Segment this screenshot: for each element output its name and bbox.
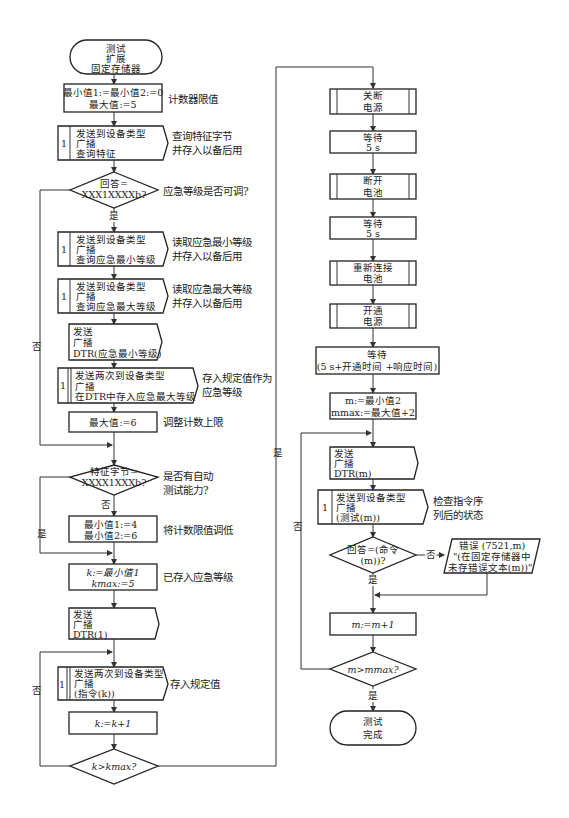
decision-answer-equals-command: 回答=(命令 (m))? [330, 537, 416, 573]
store-command-box: 1 发送两次到设备类型 广播 (指令(k)) [58, 667, 168, 700]
send-dtr-min-line-1: 发送 [73, 326, 93, 337]
send-dtr1-line-3: DTR(1) [73, 629, 108, 640]
decision3-line: k>kmax? [92, 761, 138, 772]
reconnect-battery-box: 重新连接 电池 [330, 261, 416, 285]
set-m-line-1: m:=最小值2 [345, 395, 401, 406]
decision-k-greater-kmax: k>kmax? [70, 749, 158, 784]
error-line-2: "(在固定存储器中 [453, 551, 531, 562]
set-min-note: 将计数限值调低 [163, 524, 234, 536]
query-max-line-3: 查询应急最大等级 [76, 301, 156, 312]
end-terminator: 测试 完成 [330, 711, 416, 745]
send-dtr-m-box: 发送 广播 DTR(m) [330, 447, 418, 479]
decision-m-greater-mmax: m>mmax? [330, 652, 416, 686]
query-min-note-2: 并存入以备后用 [172, 250, 242, 262]
decision2-note-2: 测试能力? [163, 484, 209, 496]
query-emergency-max-box: 1 发送到设备类型 广播 查询应急最大等级 [58, 279, 168, 313]
decision5-line: m>mmax? [347, 664, 399, 675]
query-min-line-3: 查询应急最小等级 [76, 254, 156, 265]
end-line-1: 测试 [363, 716, 383, 727]
error-line-1: 错误 (7521,m) [459, 540, 526, 551]
set-max-6-box: 最大值:=6 [69, 412, 157, 432]
decision5-no-label: 否 [293, 521, 303, 532]
decision1-no-label: 否 [32, 341, 42, 352]
test-m-box: 1 发送到设备类型 广播 (测试(m)) [318, 490, 428, 524]
set-min-line-2: 最小值2:=6 [84, 530, 137, 541]
init-line-1: 最小值1:=最小值2:=0 [63, 87, 163, 98]
store-cmd-line-3: (指令(k)) [74, 688, 115, 699]
send-dtr-emergency-min-box: 发送 广播 DTR(应急最小等级) [69, 324, 162, 360]
wait3-line-1: 等待 [367, 349, 387, 360]
store-max-note-1: 存入规定值作为 [202, 372, 272, 384]
query-features-num: 1 [61, 138, 67, 149]
set-k-box: k:=最小值1 kmax:=5 [69, 564, 157, 590]
end-line-2: 完成 [363, 729, 383, 740]
store-cmd-num: 1 [59, 679, 65, 690]
query-features-note-2: 并存入以备后用 [172, 144, 242, 156]
decision1-note: 应急等级是否可调? [163, 185, 249, 197]
set-max6-line: 最大值:=6 [89, 417, 136, 428]
set-k-line-1: k:=最小值1 [87, 567, 140, 578]
send-dtr-1-box: 发送 广播 DTR(1) [69, 608, 159, 640]
decision2-no-label: 否 [101, 499, 111, 510]
wait-5s-box-2: 等待 5 s [330, 217, 416, 239]
set-min-line-1: 最小值1:=4 [84, 519, 137, 530]
set-m-line-2: mmax:=最大值+2 [331, 407, 415, 418]
set-min-limits-box: 最小值1:=4 最小值2:=6 [69, 516, 157, 542]
set-k-note: 已存入应急等级 [163, 571, 234, 583]
inc-m-line: m:=m+1 [351, 619, 394, 630]
query-emergency-min-box: 1 发送到设备类型 广播 查询应急最小等级 [58, 232, 168, 266]
decision2-yes-label: 是 [37, 528, 47, 539]
power-on-box: 开通 电源 [330, 304, 416, 328]
decision1-line-2: XXX1XXXXb? [82, 189, 147, 200]
wait2-line-2: 5 s [366, 228, 380, 239]
query-max-note-1: 读取应急最大等级 [172, 283, 253, 295]
store-max-note-2: 应急等级 [202, 386, 243, 398]
send-dtr-m-line-3: DTR(m) [334, 468, 372, 479]
test-m-line-3: (测试(m)) [336, 512, 380, 523]
increment-k-box: k:=k+1 [69, 712, 157, 734]
start-terminator: 测试 扩展 固定存储器 [70, 40, 162, 74]
send-dtr-min-line-3: DTR(应急最小等级) [73, 348, 162, 359]
decision4-line-2: (m))? [360, 555, 385, 566]
query-min-num: 1 [61, 244, 67, 255]
decision4-line-1: 回答=(命令 [347, 544, 399, 555]
test-m-note-1: 检查指令序 [433, 495, 483, 507]
counter-limits-box: 最小值1:=最小值2:=0 最大值:=5 [63, 84, 163, 112]
send-dtr-min-line-2: 广播 [73, 337, 93, 348]
decision4-yes-label: 是 [368, 574, 378, 585]
decision3-yes-label: 是 [273, 447, 283, 458]
battery-on-line-1: 重新连接 [353, 262, 393, 273]
disconnect-battery-box: 断开 电池 [330, 174, 416, 199]
query-max-note-2: 并存入以备后用 [172, 297, 242, 309]
decision2-line-2: XXXX1XXXb? [82, 477, 147, 488]
flowchart-canvas: 测试 扩展 固定存储器 最小值1:=最小值2:=0 最大值:=5 计数器限值 1… [0, 0, 569, 818]
battery-off-line-1: 断开 [363, 175, 383, 186]
decision4-no-label: 否 [426, 549, 436, 560]
query-features-box: 1 发送到设备类型 广播 查询特征 [58, 126, 168, 160]
store-cmd-note: 存入规定值 [170, 678, 221, 690]
init-line-2: 最大值:=5 [89, 99, 136, 110]
set-max6-note: 调整计数上限 [163, 416, 224, 428]
decision1-line-1: 回答= [100, 178, 128, 189]
power-off-box: 关断 电源 [330, 89, 416, 114]
query-min-note-1: 读取应急最小等级 [172, 236, 253, 248]
decision-emergency-adjustable: 回答= XXX1XXXXb? [70, 172, 158, 208]
decision3-no-label: 否 [32, 685, 42, 696]
store-max-num: 1 [60, 380, 66, 391]
decision-auto-test-capability: 特征字节= XXXX1XXXb? [70, 465, 158, 495]
store-max-line-1: 发送两次到设备类型 [75, 370, 165, 381]
error-output-box: 错误 (7521,m) "(在固定存储器中 未存错误文本(m))" [444, 539, 540, 573]
set-m-box: m:=最小值2 mmax:=最大值+2 [330, 393, 416, 419]
power-off-line-1: 关断 [363, 90, 383, 101]
query-max-num: 1 [61, 291, 67, 302]
wait-5s-box-1: 等待 5 s [330, 131, 416, 153]
set-k-line-2: kmax:=5 [92, 578, 135, 589]
wait-startup-response-box: 等待 (5 s+开通时间 +响应时间) [316, 347, 439, 374]
inc-k-line: k:=k+1 [95, 718, 132, 729]
power-on-line-1: 开通 [363, 305, 383, 316]
increment-m-box: m:=m+1 [330, 613, 416, 635]
counter-limits-note: 计数器限值 [168, 93, 219, 105]
wait1-line-2: 5 s [366, 142, 380, 153]
store-max-line-3: 在DTR中存入应急最大等级 [75, 391, 196, 402]
error-line-3: 未存错误文本(m))" [448, 562, 533, 573]
